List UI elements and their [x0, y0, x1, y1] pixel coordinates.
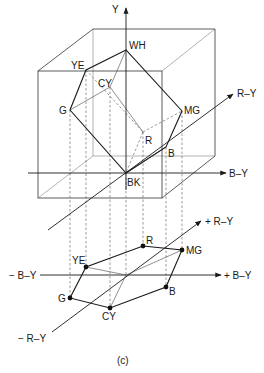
point-label-ye: YE	[72, 255, 86, 266]
point-r	[141, 244, 146, 249]
minus-by-label: − B–Y	[9, 270, 37, 281]
box-front-face	[38, 71, 162, 198]
edge-ye-r	[86, 70, 143, 132]
ry-axis	[48, 94, 233, 230]
box-edge-br	[162, 156, 215, 198]
point-label-g: G	[58, 293, 66, 304]
point-label-mg: MG	[186, 245, 202, 256]
point-cy	[108, 306, 113, 311]
lower-axes	[40, 221, 221, 332]
edge-r-mg	[143, 111, 182, 132]
point-mg	[180, 248, 185, 253]
box-edge-tl	[38, 29, 93, 71]
vertex-label-cy: CY	[98, 78, 112, 89]
point-label-cy: CY	[102, 311, 116, 322]
color-space-diagram: Y R–Y B–Y WH YE CY G MG R B BK R MG YE B…	[0, 0, 264, 373]
vertex-label-wh: WH	[129, 40, 146, 51]
plus-ry-label: + R–Y	[205, 216, 233, 227]
box-edge-bl	[38, 156, 93, 198]
point-b	[164, 285, 169, 290]
vertex-label-g: G	[59, 105, 67, 116]
point-g	[68, 296, 73, 301]
vertex-label-b: B	[168, 148, 175, 159]
box-edge-tr	[162, 29, 215, 71]
edge-wh-cy	[110, 50, 126, 87]
box-back-edges	[93, 29, 215, 156]
projected-inner-ye	[86, 267, 126, 275]
minus-ry-label: − R–Y	[18, 333, 46, 344]
vertex-label-mg: MG	[184, 105, 200, 116]
y-axis-label: Y	[112, 4, 119, 15]
ry-axis-label: R–Y	[237, 88, 257, 99]
projected-inner-mg	[126, 250, 182, 275]
point-label-r: R	[146, 235, 153, 246]
point-label-b: B	[169, 286, 176, 297]
vertex-label-r: R	[145, 135, 152, 146]
lower-ry-axis	[52, 221, 201, 332]
plus-by-label: + B–Y	[224, 270, 252, 281]
vertex-label-ye: YE	[71, 60, 85, 71]
edge-cy-g	[70, 87, 110, 110]
figure-caption: (c)	[117, 355, 129, 366]
edge-cy-r	[110, 87, 143, 132]
vertex-label-bk: BK	[127, 177, 141, 188]
by-axis-label: B–Y	[229, 168, 248, 179]
